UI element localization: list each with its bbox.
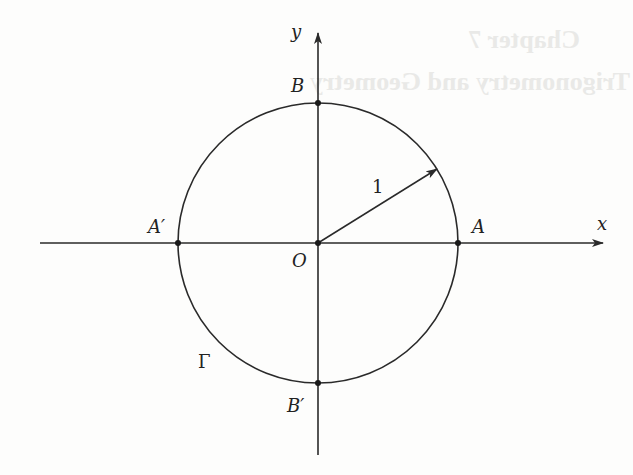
circle-label-gamma: Γ [198,351,211,372]
point-origin [315,240,321,246]
label-a: A [470,216,485,237]
point-b-prime [315,380,321,386]
radius-label: 1 [372,176,383,197]
x-axis-label: x [597,213,607,234]
point-a-prime [175,240,181,246]
label-b: B [290,75,304,96]
label-a-prime: A′ [146,216,165,237]
bleed-through-line-2: Trigonometry and Geometry [310,67,630,96]
label-b-prime: B′ [286,395,304,416]
unit-circle-diagram: Chapter 7 Trigonometry and Geometry y x … [0,0,633,475]
label-origin: O [292,250,307,271]
point-a [455,240,461,246]
bleed-through-line-1: Chapter 7 [469,25,580,54]
bleed-through-text: Chapter 7 Trigonometry and Geometry [310,25,630,96]
point-b [315,100,321,106]
y-axis-label: y [290,21,302,42]
